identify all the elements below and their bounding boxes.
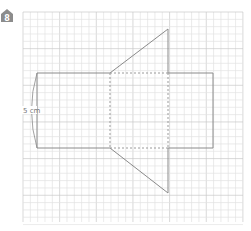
grid [23,12,243,225]
top-triangular-face [110,29,168,73]
dimension-label: 5 cm [23,107,41,115]
bottom-triangular-face [110,148,168,193]
net-outline [37,29,213,193]
net-diagram: 5 cm [0,0,251,231]
